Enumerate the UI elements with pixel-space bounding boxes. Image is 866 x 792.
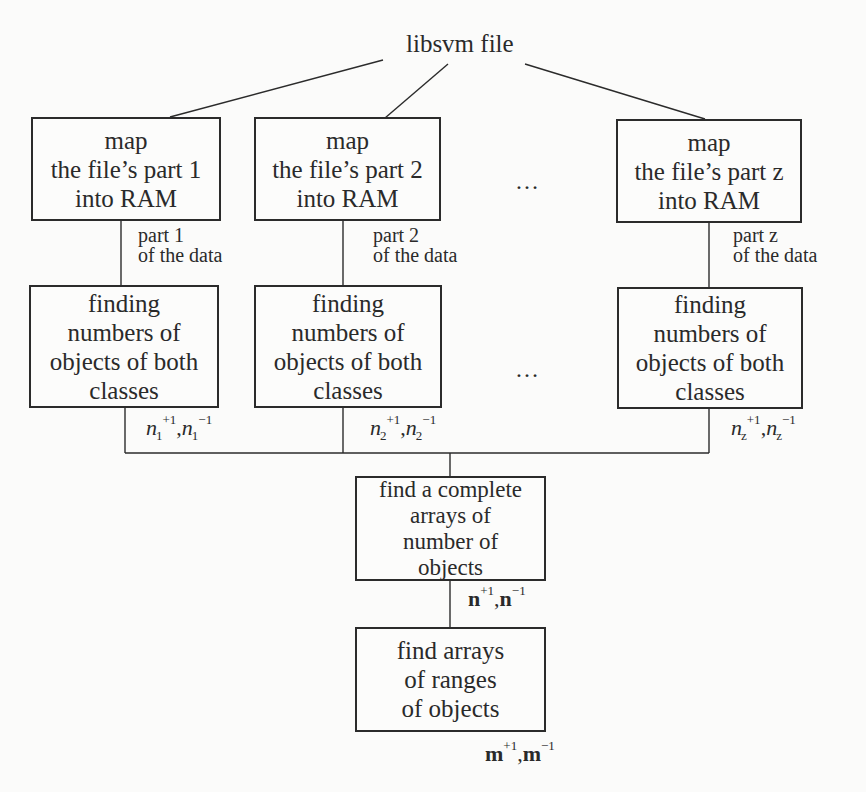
- superscript: +1: [480, 583, 494, 598]
- box-text-line: find a complete: [379, 477, 522, 503]
- flow-diagram: libsvm file map the file’s part 1 into R…: [0, 0, 866, 792]
- superscript: −1: [422, 412, 436, 427]
- subscript: 2: [416, 428, 423, 443]
- edge-file-to-map-2: [385, 64, 448, 118]
- box-text-line: classes: [675, 377, 744, 406]
- count-label-part-1: n1+1,n1−1: [146, 412, 212, 444]
- box-text-line: into RAM: [75, 184, 177, 213]
- superscript: −1: [198, 412, 212, 427]
- box-text-line: arrays of: [410, 503, 491, 529]
- superscript: +1: [503, 738, 517, 753]
- box-text-line: into RAM: [658, 186, 760, 215]
- box-text-line: the file’s part 1: [51, 155, 202, 184]
- ellipsis-finding-row: …: [515, 356, 540, 383]
- subscript: 2: [380, 428, 387, 443]
- data-label-part-2: part 2 of the data: [373, 225, 457, 265]
- subscript: z: [741, 428, 747, 443]
- box-text-line: the file’s part 2: [272, 155, 423, 184]
- var-m-bold: m: [485, 741, 503, 766]
- box-text-line: finding: [88, 289, 160, 318]
- map-box-part-z: map the file’s part z into RAM: [616, 119, 802, 223]
- label-line: part 1: [138, 225, 222, 245]
- map-box-part-2: map the file’s part 2 into RAM: [254, 117, 441, 221]
- superscript: +1: [163, 412, 177, 427]
- box-text-line: find arrays: [397, 636, 505, 665]
- box-text-line: classes: [313, 376, 382, 405]
- box-text-line: number of: [403, 529, 498, 555]
- count-label-part-2: n2+1,n2−1: [370, 412, 436, 444]
- box-text-line: into RAM: [296, 184, 398, 213]
- box-text-line: finding: [312, 289, 384, 318]
- box-text-line: objects of both: [50, 347, 199, 376]
- subscript: 1: [192, 428, 199, 443]
- subscript: z: [776, 428, 782, 443]
- ellipsis-map-row: …: [515, 168, 540, 195]
- box-text-line: of ranges: [404, 665, 496, 694]
- subscript: 1: [156, 428, 163, 443]
- box-text-line: map: [326, 126, 369, 155]
- superscript: +1: [387, 412, 401, 427]
- superscript: −1: [541, 738, 555, 753]
- box-text-line: objects: [418, 555, 483, 581]
- label-line: of the data: [373, 245, 457, 265]
- var-n-bold: n: [500, 586, 512, 611]
- box-text-line: numbers of: [653, 319, 766, 348]
- box-text-line: map: [687, 128, 730, 157]
- map-box-part-1: map the file’s part 1 into RAM: [31, 117, 221, 221]
- edge-file-to-map-z: [525, 64, 705, 119]
- superscript: +1: [747, 412, 761, 427]
- label-line: part z: [733, 225, 817, 245]
- complete-arrays-box: find a complete arrays of number of obje…: [355, 476, 546, 581]
- box-text-line: numbers of: [291, 318, 404, 347]
- box-text-line: classes: [89, 376, 158, 405]
- box-text-line: objects of both: [274, 347, 423, 376]
- box-text-line: objects of both: [636, 348, 785, 377]
- var-m-bold: m: [523, 741, 541, 766]
- libsvm-file-label: libsvm file: [406, 30, 514, 58]
- label-line: of the data: [733, 245, 817, 265]
- complete-count-label: n+1,n−1: [468, 583, 526, 612]
- var-n-bold: n: [468, 586, 480, 611]
- label-line: part 2: [373, 225, 457, 245]
- data-label-part-z: part z of the data: [733, 225, 817, 265]
- box-text-line: of objects: [402, 694, 500, 723]
- edge-file-to-map-1: [170, 60, 383, 117]
- box-text-line: finding: [674, 290, 746, 319]
- finding-box-part-z: finding numbers of objects of both class…: [617, 287, 803, 409]
- box-text-line: numbers of: [67, 318, 180, 347]
- ranges-label: m+1,m−1: [485, 738, 555, 767]
- count-label-part-z: nz+1,nz−1: [731, 412, 796, 444]
- data-label-part-1: part 1 of the data: [138, 225, 222, 265]
- label-line: of the data: [138, 245, 222, 265]
- superscript: −1: [782, 412, 796, 427]
- superscript: −1: [512, 583, 526, 598]
- finding-box-part-2: finding numbers of objects of both class…: [254, 285, 442, 408]
- ranges-arrays-box: find arrays of ranges of objects: [355, 627, 546, 732]
- box-text-line: the file’s part z: [634, 157, 783, 186]
- finding-box-part-1: finding numbers of objects of both class…: [29, 285, 219, 408]
- box-text-line: map: [104, 126, 147, 155]
